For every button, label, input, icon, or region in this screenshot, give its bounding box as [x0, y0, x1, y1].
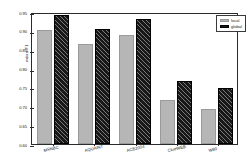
bar-global — [177, 81, 192, 144]
x-axis-tick-label: W80 — [208, 146, 218, 153]
y-axis-tick-label: 0.90 — [1, 29, 27, 34]
y-axis-tick-label: 0.85 — [1, 48, 27, 53]
y-axis-tick-label: 0.70 — [1, 105, 27, 110]
y-axis-tick-label: 0.75 — [1, 86, 27, 91]
bar-chart-figure: micro-F1 0.950.900.850.800.750.700.650.6… — [0, 0, 249, 159]
bar-group — [78, 14, 110, 144]
bar-local — [119, 35, 134, 144]
plot-area — [31, 13, 238, 145]
bar-group — [201, 14, 233, 144]
bar-local — [201, 109, 216, 144]
bar-global — [136, 19, 151, 144]
y-axis-tick-label: 0.80 — [1, 67, 27, 72]
bar-group — [37, 14, 69, 144]
y-axis-tick-label: 0.95 — [1, 11, 27, 16]
x-axis-tick-label: MSNBC — [43, 145, 59, 153]
bar-global — [95, 29, 110, 144]
bar-global — [54, 15, 69, 144]
chart-legend: local global — [216, 15, 246, 32]
bar-local — [160, 100, 175, 144]
legend-label-global: global — [231, 24, 242, 30]
bar-group — [160, 14, 192, 144]
bar-group — [119, 14, 151, 144]
bar-global — [218, 88, 233, 144]
y-axis-tick-label: 0.65 — [1, 124, 27, 129]
bar-local — [37, 30, 52, 144]
bar-local — [78, 44, 93, 144]
y-axis-tick-inner — [32, 146, 34, 147]
bar-groups — [32, 14, 237, 144]
legend-item-global: global — [220, 24, 242, 30]
legend-swatch-local-icon — [220, 19, 229, 22]
y-axis-tick-label: 0.60 — [1, 143, 27, 148]
legend-swatch-global-icon — [220, 25, 229, 28]
